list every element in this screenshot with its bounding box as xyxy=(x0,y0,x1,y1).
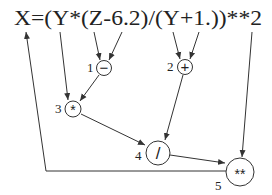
svg-text:1: 1 xyxy=(87,60,94,75)
svg-text:4: 4 xyxy=(135,148,142,163)
edge-y-to-plus xyxy=(173,32,180,59)
edge-minus-to-star xyxy=(80,75,99,101)
edge-slash-to-power xyxy=(170,155,225,163)
expression-tree-diagram: X=(Y*(Z-6.2)/(Y+1.))**2 − 1 + 2 xyxy=(0,0,272,195)
svg-text:5: 5 xyxy=(215,178,222,193)
node-2-plus: + 2 xyxy=(167,58,193,75)
svg-text:*: * xyxy=(70,102,76,118)
svg-text:3: 3 xyxy=(55,101,62,116)
node-5-power: ** 5 xyxy=(215,158,254,193)
edge-z-to-minus xyxy=(94,32,100,60)
edge-y-to-star xyxy=(60,32,68,100)
edge-6.2-to-minus xyxy=(109,32,122,60)
edge-star-to-slash xyxy=(81,114,145,145)
svg-text:−: − xyxy=(100,59,109,76)
expression-text: X=(Y*(Z-6.2)/(Y+1.))**2 xyxy=(14,6,262,30)
svg-text:**: ** xyxy=(235,166,246,182)
node-3-multiply: * 3 xyxy=(55,101,81,118)
node-1-minus: − 1 xyxy=(87,59,112,76)
svg-text:+: + xyxy=(181,58,190,75)
edge-plus-to-slash xyxy=(165,75,183,140)
svg-text:/: / xyxy=(156,144,161,163)
edge-1-to-plus xyxy=(190,32,199,59)
svg-text:2: 2 xyxy=(167,59,174,74)
edge-2-to-power xyxy=(242,32,252,157)
node-4-divide: / 4 xyxy=(135,141,170,165)
